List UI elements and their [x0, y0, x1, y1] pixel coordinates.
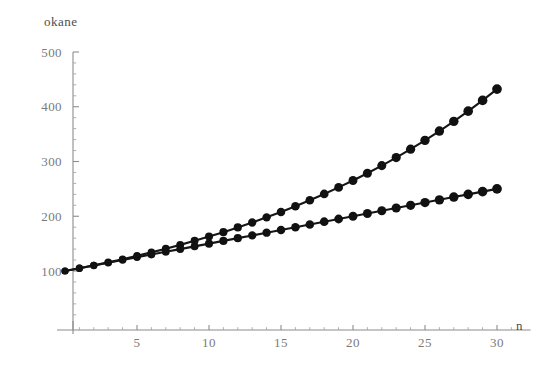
data-point [234, 234, 242, 242]
data-point [363, 209, 372, 218]
plot-svg: 10020030040050051015202530 [0, 0, 556, 384]
data-point [248, 218, 256, 226]
data-point [463, 190, 473, 200]
data-point [392, 203, 401, 212]
data-point [492, 184, 502, 194]
series-compound [61, 84, 501, 274]
data-point [392, 153, 401, 162]
data-point [492, 84, 502, 94]
data-point [248, 231, 256, 239]
data-point [377, 161, 386, 170]
data-point [305, 220, 314, 229]
data-point [291, 202, 300, 211]
data-point [420, 198, 429, 207]
axes-group [57, 52, 531, 334]
data-point [205, 240, 213, 248]
data-point [133, 254, 141, 262]
data-point [219, 237, 227, 245]
data-series-group [61, 84, 501, 274]
y-tick-label: 500 [41, 45, 62, 60]
data-point [334, 183, 343, 192]
x-tick-label: 25 [418, 335, 432, 350]
data-point [420, 136, 429, 145]
data-point [262, 228, 270, 236]
series-line-compound [65, 89, 497, 271]
data-point [478, 96, 488, 106]
data-point [104, 259, 111, 266]
data-point [406, 201, 415, 210]
x-tick-label: 30 [490, 335, 504, 350]
data-point [305, 196, 314, 205]
data-point [162, 248, 170, 256]
x-axis-label: n [516, 318, 523, 334]
ticks-group [73, 52, 511, 330]
y-tick-label: 100 [41, 264, 62, 279]
data-point [435, 195, 444, 204]
data-point [61, 267, 68, 274]
data-point [262, 213, 270, 221]
chart-canvas: 10020030040050051015202530 okane n [0, 0, 556, 384]
y-tick-label: 300 [41, 154, 62, 169]
data-point [148, 251, 156, 259]
data-point [320, 217, 329, 226]
data-point [234, 223, 242, 231]
data-point [76, 265, 83, 272]
data-point [191, 242, 199, 250]
data-point [349, 212, 358, 221]
data-point [119, 256, 127, 264]
series-simple [61, 184, 501, 275]
data-point [377, 206, 386, 215]
data-point [219, 228, 227, 236]
data-point [463, 106, 473, 116]
data-point [320, 190, 329, 199]
x-tick-label: 10 [202, 335, 216, 350]
data-point [406, 145, 415, 154]
data-point [449, 117, 458, 126]
data-point [435, 126, 444, 135]
tick-labels-group: 10020030040050051015202530 [41, 45, 504, 351]
x-tick-label: 20 [346, 335, 360, 350]
data-point [478, 187, 488, 197]
data-point [277, 208, 285, 216]
data-point [176, 245, 184, 253]
y-axis-label: okane [44, 14, 78, 30]
x-tick-label: 15 [274, 335, 288, 350]
data-point [449, 192, 458, 201]
y-tick-label: 400 [41, 99, 62, 114]
data-point [205, 233, 213, 241]
data-point [90, 262, 97, 269]
data-point [277, 226, 285, 234]
y-tick-label: 200 [41, 209, 62, 224]
data-point [291, 223, 300, 232]
data-point [334, 215, 343, 224]
data-point [363, 169, 372, 178]
x-tick-label: 5 [134, 335, 141, 350]
data-point [349, 176, 358, 185]
